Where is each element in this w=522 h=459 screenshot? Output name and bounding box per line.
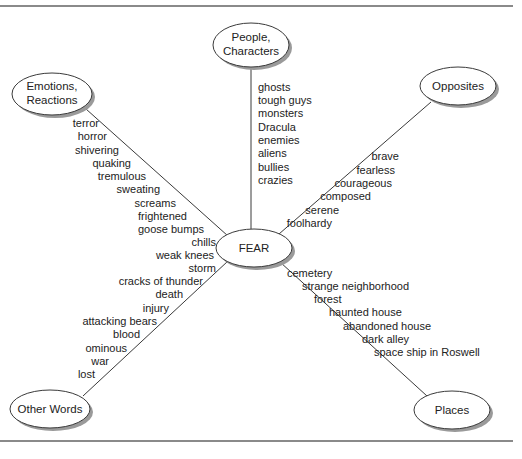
node-other-words-label: Other Words: [18, 403, 83, 415]
word-item: abandoned house: [343, 320, 431, 332]
word-list-opposites: brave fearless courageous composed seren…: [287, 150, 399, 229]
node-people: People, Characters: [213, 23, 292, 70]
node-places: Places: [414, 391, 493, 432]
word-item: quaking: [92, 157, 131, 169]
word-item: ominous: [85, 342, 127, 354]
word-item: monsters: [258, 107, 304, 119]
word-item: frightened: [138, 210, 187, 222]
word-item: Dracula: [258, 121, 297, 133]
node-places-label: Places: [435, 404, 470, 416]
word-item: serene: [305, 204, 339, 216]
fear-word-web: Emotions, Reactions People, Characters O…: [0, 0, 522, 459]
node-emotions-label-1: Emotions,: [26, 80, 77, 92]
word-item: forest: [314, 293, 342, 305]
node-opposites-label: Opposites: [432, 80, 484, 92]
word-item: cemetery: [287, 267, 333, 279]
word-item: blood: [113, 328, 140, 340]
word-item: space ship in Roswell: [374, 346, 480, 358]
word-item: injury: [143, 302, 170, 314]
word-item: fearless: [356, 164, 395, 176]
node-fear-label: FEAR: [239, 242, 270, 254]
word-item: brave: [371, 150, 399, 162]
word-list-people: ghosts tough guys monsters Dracula enemi…: [258, 81, 312, 186]
word-item: cracks of thunder: [119, 275, 204, 287]
word-item: crazies: [258, 174, 293, 186]
node-fear-center: FEAR: [216, 229, 295, 270]
word-list-other-words: storm cracks of thunder death injury att…: [78, 262, 216, 380]
word-item: horror: [78, 130, 108, 142]
word-item: sweating: [117, 183, 160, 195]
word-item: bullies: [258, 161, 290, 173]
word-item: enemies: [258, 134, 300, 146]
word-item: death: [155, 288, 183, 300]
word-item: attacking bears: [82, 315, 157, 327]
node-emotions: Emotions, Reactions: [12, 73, 95, 118]
word-list-places: cemetery strange neighborhood forest hau…: [287, 267, 480, 358]
word-item: chills: [192, 236, 217, 248]
word-item: dark alley: [362, 333, 410, 345]
word-item: haunted house: [329, 306, 402, 318]
word-item: lost: [78, 368, 95, 380]
word-item: composed: [320, 190, 371, 202]
word-item: storm: [189, 262, 217, 274]
word-item: screams: [134, 197, 176, 209]
word-item: terror: [73, 117, 100, 129]
node-other-words: Other Words: [10, 390, 93, 431]
word-item: war: [90, 355, 109, 367]
word-item: goose bumps: [138, 223, 205, 235]
word-item: tough guys: [258, 94, 312, 106]
line-opposites: [279, 102, 431, 234]
word-item: courageous: [335, 177, 393, 189]
word-item: aliens: [258, 147, 287, 159]
word-item: weak knees: [155, 249, 215, 261]
word-item: strange neighborhood: [302, 280, 409, 292]
word-list-emotions: terror horror shivering quaking tremulou…: [73, 117, 217, 261]
word-item: foolhardy: [287, 217, 333, 229]
node-emotions-label-2: Reactions: [26, 94, 77, 106]
node-people-label-1: People,: [231, 31, 270, 43]
word-item: shivering: [75, 144, 119, 156]
word-item: tremulous: [98, 170, 147, 182]
node-people-label-2: Characters: [223, 45, 279, 57]
node-opposites: Opposites: [420, 67, 499, 108]
word-item: ghosts: [258, 81, 291, 93]
